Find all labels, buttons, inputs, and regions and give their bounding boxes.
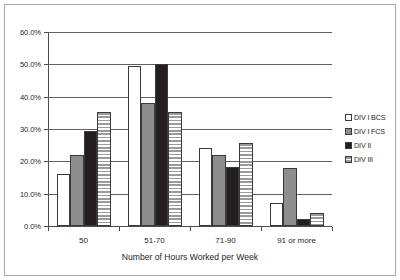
x-axis-category-label: 51-70: [144, 236, 164, 245]
x-axis-tick: [261, 227, 262, 231]
bar: [226, 167, 240, 226]
legend-swatch-icon: [345, 128, 352, 135]
bar: [310, 213, 324, 226]
bar: [84, 131, 98, 226]
bar-group: [57, 32, 111, 226]
bar: [199, 148, 213, 226]
y-axis-tick: [44, 129, 48, 130]
legend-swatch-icon: [345, 142, 352, 149]
bar: [128, 66, 142, 226]
bar: [168, 112, 182, 226]
bar: [57, 174, 71, 226]
legend-swatch-icon: [345, 156, 352, 163]
x-axis-tick: [119, 227, 120, 231]
x-axis-title: Number of Hours Worked per Week: [48, 252, 332, 262]
bar: [212, 155, 226, 226]
y-axis-tick-label: 60.0%: [20, 28, 41, 37]
y-axis-tick: [44, 161, 48, 162]
y-axis-tick: [44, 194, 48, 195]
bar: [270, 203, 284, 226]
legend-label: DIV I BCS: [354, 113, 385, 122]
legend-label: DIV III: [354, 155, 373, 164]
x-axis-tick: [48, 227, 49, 231]
plot-area: 0.0%10.0%20.0%30.0%40.0%50.0%60.0%: [48, 32, 332, 227]
x-axis-tick: [190, 227, 191, 231]
legend-item[interactable]: DIV I BCS: [345, 110, 397, 124]
legend-item[interactable]: DIV I FCS: [345, 124, 397, 138]
y-axis-tick-label: 40.0%: [20, 92, 41, 101]
y-axis-tick-label: 0.0%: [24, 222, 41, 231]
bar: [97, 112, 111, 226]
legend-label: DIV II: [354, 141, 371, 150]
bar-group: [270, 32, 324, 226]
y-axis-tick-label: 20.0%: [20, 157, 41, 166]
y-axis-tick-label: 50.0%: [20, 60, 41, 69]
bar: [239, 143, 253, 226]
y-axis-tick: [44, 64, 48, 65]
bar: [283, 168, 297, 226]
y-axis-tick: [44, 97, 48, 98]
y-axis-tick-label: 10.0%: [20, 189, 41, 198]
x-axis-tick: [332, 227, 333, 231]
legend-item[interactable]: DIV II: [345, 138, 397, 152]
chart-figure: 0.0%10.0%20.0%30.0%40.0%50.0%60.0% 5051-…: [0, 0, 400, 280]
bar: [297, 219, 311, 226]
legend-item[interactable]: DIV III: [345, 152, 397, 166]
y-axis-tick: [44, 32, 48, 33]
x-axis-category-label: 91 or more: [277, 236, 316, 245]
bar: [70, 155, 84, 226]
chart-legend: DIV I BCSDIV I FCSDIV IIDIV III: [345, 110, 397, 166]
bar: [141, 103, 155, 226]
x-axis-category-label: 71-90: [215, 236, 235, 245]
legend-label: DIV I FCS: [354, 127, 385, 136]
legend-swatch-icon: [345, 114, 352, 121]
bar-group: [128, 32, 182, 226]
bar-group: [199, 32, 253, 226]
y-axis-tick-label: 30.0%: [20, 125, 41, 134]
x-axis-category-label: 50: [79, 236, 88, 245]
bar: [155, 64, 169, 226]
